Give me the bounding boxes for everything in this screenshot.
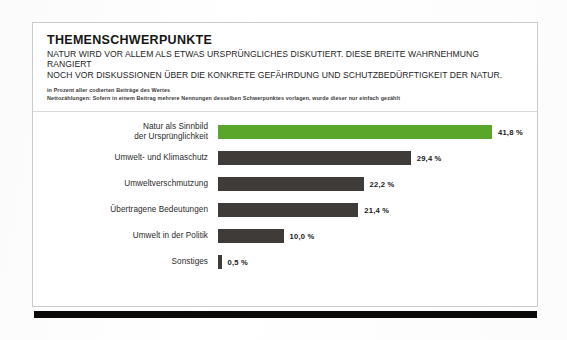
footer-rule: [34, 311, 537, 318]
chart-row: Umweltverschmutzung 22,2 %: [33, 171, 537, 197]
bar-zone: 10,0 %: [218, 223, 537, 249]
category-label-line-1: Übertragene Bedeutungen: [110, 205, 208, 214]
bar-value-label: 21,4 %: [364, 206, 389, 215]
bar-zone: 0,5 %: [218, 249, 537, 275]
bar-sonstiges: [218, 255, 222, 269]
page-title: THEMENSCHWERPUNKTE: [47, 33, 525, 47]
bar-value-label: 41,8 %: [498, 128, 523, 137]
category-label: Umweltverschmutzung: [33, 179, 218, 189]
subtitle-line-1: NATUR WIRD VOR ALLEM ALS ETWAS URSPRÜNGL…: [47, 49, 525, 70]
category-label: Natur als Sinnbild der Ursprünglichkeit: [33, 122, 218, 141]
category-label-line-1: Umwelt in der Politik: [133, 231, 208, 240]
chart-row: Übertragene Bedeutungen 21,4 %: [33, 197, 537, 223]
category-label: Übertragene Bedeutungen: [33, 205, 218, 215]
scanned-page: THEMENSCHWERPUNKTE NATUR WIRD VOR ALLEM …: [0, 0, 567, 340]
header-divider: [33, 111, 537, 112]
bar-zone: 22,2 %: [218, 171, 537, 197]
bar-umweltverschmutzung: [218, 177, 364, 191]
category-label-line-1: Umwelt- und Klimaschutz: [114, 153, 208, 162]
bar-value-label: 29,4 %: [417, 154, 442, 163]
subtitle-line-2: NOCH VOR DISKUSSIONEN ÜBER DIE KONKRETE …: [47, 70, 525, 80]
chart-row: Sonstiges 0,5 %: [33, 249, 537, 275]
bar-uebertragene-bedeutungen: [218, 203, 358, 217]
category-label-line-1: Umweltverschmutzung: [124, 179, 208, 188]
slide-card: THEMENSCHWERPUNKTE NATUR WIRD VOR ALLEM …: [32, 22, 538, 307]
note-line-2: Nettozählungen: Sofern in einem Beitrag …: [47, 94, 525, 102]
bar-natur-als-sinnbild: [218, 125, 492, 139]
category-label-line-2: der Ursprünglichkeit: [33, 132, 208, 142]
chart-row: Natur als Sinnbild der Ursprünglichkeit …: [33, 119, 537, 145]
card-header: THEMENSCHWERPUNKTE NATUR WIRD VOR ALLEM …: [47, 33, 525, 103]
bar-value-label: 0,5 %: [228, 258, 248, 267]
bar-umwelt-in-der-politik: [218, 229, 284, 243]
category-label-line-1: Natur als Sinnbild: [143, 122, 208, 131]
bar-zone: 21,4 %: [218, 197, 537, 223]
bar-zone: 29,4 %: [218, 145, 537, 171]
methodology-notes: in Prozent aller codierten Beiträge des …: [47, 86, 525, 102]
category-label: Umwelt- und Klimaschutz: [33, 153, 218, 163]
note-line-1: in Prozent aller codierten Beiträge des …: [47, 86, 525, 94]
category-label: Sonstiges: [33, 257, 218, 267]
chart-row: Umwelt- und Klimaschutz 29,4 %: [33, 145, 537, 171]
bar-value-label: 10,0 %: [290, 232, 315, 241]
chart-row: Umwelt in der Politik 10,0 %: [33, 223, 537, 249]
category-label: Umwelt in der Politik: [33, 231, 218, 241]
category-label-line-1: Sonstiges: [172, 257, 208, 266]
bar-chart: Natur als Sinnbild der Ursprünglichkeit …: [33, 119, 537, 296]
bar-value-label: 22,2 %: [370, 180, 395, 189]
bar-zone: 41,8 %: [218, 119, 537, 145]
bar-umwelt-und-klimaschutz: [218, 151, 411, 165]
